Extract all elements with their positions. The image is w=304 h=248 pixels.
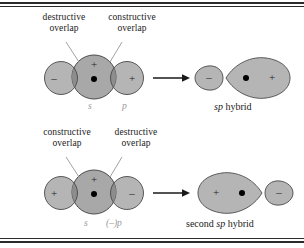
bottom-leader-destructive: [110, 157, 122, 177]
top-leader-constructive: [110, 42, 122, 62]
bottom-reaction-arrow: [153, 189, 190, 197]
top-leader-destructive: [66, 42, 79, 62]
top-hybrid-small-sign: –: [205, 71, 212, 83]
bottom-left-sign: +: [51, 187, 57, 199]
orbital-artwork: – + + – +: [0, 0, 304, 248]
bottom-nucleus-dot: [91, 191, 97, 197]
bottom-row-reactants: + + –: [45, 157, 144, 214]
caption-sp-hybrid-top-rest: hybrid: [223, 101, 252, 112]
label-p-top: p: [122, 101, 127, 111]
orbital-hybridization-figure: – + + – +: [0, 0, 304, 248]
caption-sp-hybrid-top-italic: sp: [214, 101, 223, 112]
annot-constructive-top-line1: constructive: [86, 12, 178, 23]
label-s-top: s: [88, 101, 92, 111]
bottom-center-sign: +: [91, 173, 97, 185]
caption-sp-hybrid-bottom: second sp hybrid: [186, 218, 254, 229]
annot-constructive-top: constructive overlap: [86, 12, 178, 34]
annot-destructive-bottom-line2: overlap: [90, 138, 182, 149]
label-s-bottom: s: [84, 218, 88, 228]
caption-sp-hybrid-bottom-rest: hybrid: [225, 218, 254, 229]
label-p-bottom: (–)p: [106, 218, 122, 228]
bottom-hybrid-nucleus-dot: [239, 190, 245, 196]
annot-destructive-bottom-line1: destructive: [90, 127, 182, 138]
caption-sp-hybrid-top: sp hybrid: [214, 101, 252, 112]
top-sp-hybrid: – +: [195, 58, 290, 99]
bottom-hybrid-small-sign: –: [275, 186, 282, 198]
top-nucleus-dot: [91, 76, 97, 82]
top-center-sign: +: [91, 58, 97, 70]
caption-sp-hybrid-bottom-lead: second: [186, 218, 216, 229]
bottom-hybrid-large-sign: +: [213, 186, 219, 198]
top-reaction-arrow: [153, 74, 190, 82]
top-row-reactants: – + +: [45, 42, 144, 99]
bottom-leader-constructive: [66, 157, 79, 177]
top-right-sign: +: [129, 72, 135, 84]
bottom-hybrid-large-lobe: [198, 173, 262, 214]
bottom-sp-hybrid: + –: [198, 173, 293, 214]
bottom-right-sign: –: [128, 187, 135, 199]
top-hybrid-nucleus-dot: [243, 75, 249, 81]
caption-sp-hybrid-bottom-italic: sp: [216, 218, 225, 229]
top-left-sign: –: [50, 72, 57, 84]
annot-destructive-bottom: destructive overlap: [90, 127, 182, 149]
top-hybrid-large-sign: +: [269, 71, 275, 83]
top-hybrid-large-lobe: [226, 58, 290, 99]
annot-constructive-top-line2: overlap: [86, 23, 178, 34]
